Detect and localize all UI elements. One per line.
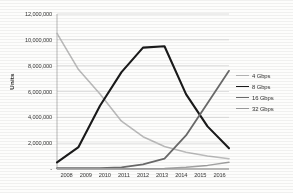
- x-axis-tick-label: 2008: [57, 172, 76, 186]
- legend-item-32-gbps[interactable]: 32 Gbps: [236, 103, 293, 114]
- legend-label: 8 Gbps: [252, 84, 270, 90]
- y-axis-tick-label: -: [6, 166, 52, 172]
- chart-legend: 4 Gbps8 Gbps16 Gbps32 Gbps: [236, 70, 293, 114]
- series-line-8-gbps: [57, 46, 229, 162]
- legend-swatch-icon: [236, 97, 249, 98]
- x-axis-tick-label: 2016: [210, 172, 229, 186]
- x-axis-tick-label: 2011: [114, 172, 133, 186]
- legend-swatch-icon: [236, 108, 249, 109]
- x-axis-tick-labels: 200820092010201120122013201420152016: [57, 172, 229, 186]
- x-axis-tick-label: 2012: [133, 172, 152, 186]
- legend-swatch-icon: [236, 86, 249, 87]
- legend-item-4-gbps[interactable]: 4 Gbps: [236, 70, 293, 81]
- plot-svg: [57, 14, 229, 169]
- y-axis-tick-label: 12,000,000: [6, 11, 52, 17]
- x-axis-tick-label: 2013: [153, 172, 172, 186]
- y-axis-tick-label: 10,000,000: [6, 37, 52, 43]
- y-axis-tick-label: 6,000,000: [6, 89, 52, 95]
- x-axis-tick-label: 2015: [191, 172, 210, 186]
- y-axis-tick-label: 4,000,000: [6, 114, 52, 120]
- line-chart: Units 12,000,00010,000,0008,000,0006,000…: [0, 0, 293, 193]
- legend-label: 32 Gbps: [252, 106, 274, 112]
- x-axis-tick-label: 2014: [172, 172, 191, 186]
- legend-item-16-gbps[interactable]: 16 Gbps: [236, 92, 293, 103]
- legend-item-8-gbps[interactable]: 8 Gbps: [236, 81, 293, 92]
- x-axis-tick-label: 2009: [76, 172, 95, 186]
- legend-swatch-icon: [236, 75, 249, 76]
- x-axis-tick-label: 2010: [95, 172, 114, 186]
- y-axis-tick-label: 8,000,000: [6, 63, 52, 69]
- plot-area: [57, 14, 229, 169]
- legend-label: 4 Gbps: [252, 73, 270, 79]
- y-axis-tick-label: 2,000,000: [6, 140, 52, 146]
- y-axis-tick-labels: 12,000,00010,000,0008,000,0006,000,0004,…: [4, 0, 52, 193]
- legend-label: 16 Gbps: [252, 95, 274, 101]
